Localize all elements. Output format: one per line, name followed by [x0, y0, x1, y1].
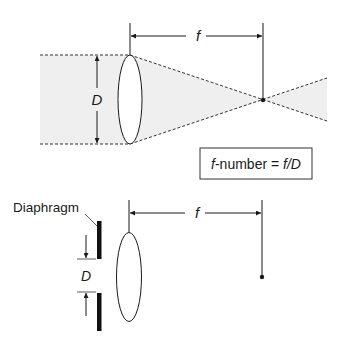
diameter-label: D [92, 91, 103, 108]
diverging-beam-fill [263, 78, 327, 121]
lens-bottom [117, 233, 142, 322]
focal-length-label-bottom: f [195, 204, 201, 221]
f-number-diagram: f D f-number = f/D Diaphragm D f [0, 0, 346, 347]
diaphragm-blade-bottom [97, 293, 102, 331]
lens [118, 55, 142, 144]
focal-point-bottom [260, 275, 264, 279]
diaphragm-label: Diaphragm [13, 200, 79, 215]
incoming-beam-fill [40, 55, 263, 144]
formula-middle: -number = [215, 156, 283, 172]
bottom-diagram: Diaphragm D f [13, 200, 264, 331]
aperture-label: D [81, 268, 91, 284]
diaphragm-leader-line [85, 214, 97, 226]
focal-length-label: f [196, 27, 202, 44]
top-diagram: f D f-number = f/D [40, 23, 327, 179]
formula-text: f-number = f/D [211, 156, 301, 172]
formula-suffix: f/D [283, 156, 301, 172]
focal-point [261, 98, 265, 102]
diaphragm-blade-top [97, 221, 102, 259]
